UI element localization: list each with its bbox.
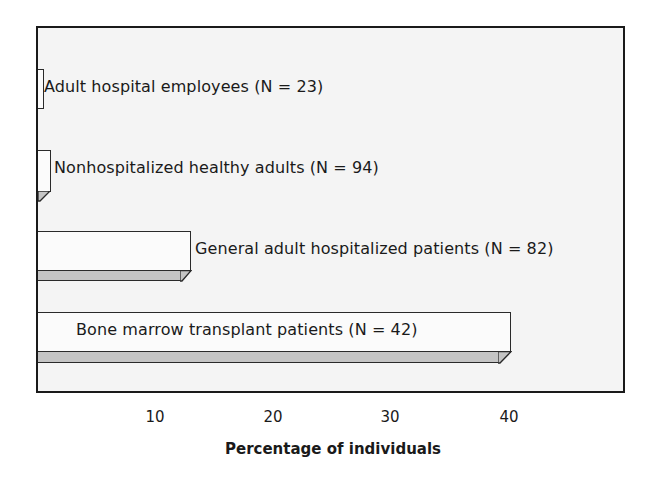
bar-shadow-bevel — [498, 351, 512, 364]
x-tick-40: 40 — [499, 408, 518, 426]
bar-shadow — [38, 191, 49, 201]
bar-label-nonhospitalized-healthy-adults: Nonhospitalized healthy adults (N = 94) — [54, 158, 379, 177]
bar-shadow — [38, 270, 182, 281]
x-tick-10: 10 — [145, 408, 164, 426]
bar-face — [38, 150, 51, 192]
bar-shadow-bevel — [180, 270, 192, 282]
bar-label-adult-hospital-employees: Adult hospital employees (N = 23) — [44, 77, 323, 96]
bar-label-bone-marrow-transplant-patients: Bone marrow transplant patients (N = 42) — [76, 320, 418, 339]
x-tick-30: 30 — [380, 408, 399, 426]
plot-area: Adult hospital employees (N = 23) Nonhos… — [36, 26, 625, 393]
x-tick-20: 20 — [263, 408, 282, 426]
bar-shadow — [38, 351, 500, 363]
bar-face — [38, 231, 191, 272]
x-axis-title: Percentage of individuals — [0, 440, 656, 458]
bar-label-general-adult-hospitalized-patients: General adult hospitalized patients (N =… — [195, 239, 554, 258]
